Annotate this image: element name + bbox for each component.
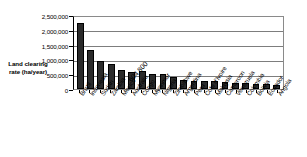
chart-figure: Land clearing rate (ha/year) 0500,0001,0… [0, 0, 307, 157]
x-axis-tick-labels: BrazilIndonesiaSudanZambiaMexicoAustrali… [73, 93, 284, 155]
y-axis-tick-label: 1,000,000 [24, 57, 68, 64]
y-axis-tick-label: 1,500,000 [24, 42, 68, 49]
bar-slot [199, 17, 209, 89]
bar-slot [75, 17, 85, 89]
y-axis-tick-label: 0 [24, 87, 68, 94]
y-axis-tick-label: 500,000 [24, 72, 68, 79]
bar [77, 23, 84, 89]
y-axis-tick-label: 2,000,000 [24, 27, 68, 34]
bar-slot [85, 17, 95, 89]
y-axis-tick-label: 2,500,000 [24, 13, 68, 20]
